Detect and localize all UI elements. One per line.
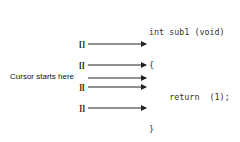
diagram-canvas: [] [[ Cursor starts here ][ ]] int sub1 … — [0, 0, 240, 142]
label-brackets-3: ][ — [79, 82, 85, 92]
code-line: { — [149, 60, 230, 71]
label-cursor-start: Cursor starts here — [10, 72, 74, 82]
code-line: int sub1 (void) — [149, 27, 230, 38]
label-brackets-4: ]] — [79, 103, 85, 113]
label-brackets-1: [] — [79, 39, 85, 49]
code-line: return (1); — [149, 92, 230, 103]
code-line: } — [149, 124, 230, 135]
label-brackets-2: [[ — [79, 60, 85, 70]
code-listing: int sub1 (void) { return (1); } int sub2… — [149, 6, 230, 142]
